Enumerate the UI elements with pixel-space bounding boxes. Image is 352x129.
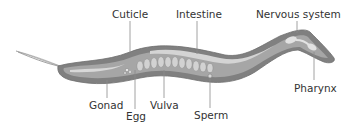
worm-tail-stroke	[18, 52, 58, 66]
label-cuticle: Cuticle	[112, 8, 148, 20]
label-gonad: Gonad	[89, 99, 123, 111]
label-pharynx: Pharynx	[294, 82, 337, 94]
label-vulva: Vulva	[150, 99, 179, 111]
label-nervous-system: Nervous system	[256, 8, 341, 20]
sperm-spot	[208, 74, 212, 78]
worm-tail	[16, 51, 60, 66]
label-intestine: Intestine	[176, 8, 222, 20]
label-egg: Egg	[126, 110, 146, 122]
label-sperm: Sperm	[194, 109, 228, 121]
